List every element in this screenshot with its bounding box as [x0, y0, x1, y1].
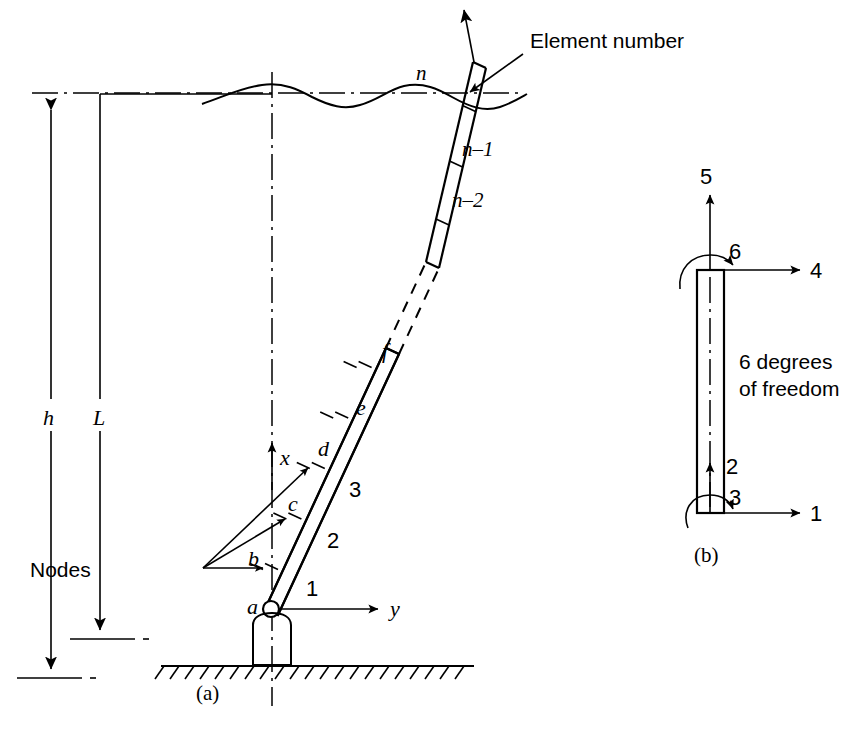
node-tick-n-2 [436, 219, 449, 225]
element-number-annotation: Element number [530, 29, 684, 52]
dimension-h: h [17, 110, 96, 678]
pin-hinge-circle [263, 601, 279, 617]
nodes-annotation: Nodes [30, 558, 91, 581]
panel-a: h L [17, 10, 684, 706]
node-tick-f [344, 362, 357, 368]
element-number-1: 1 [306, 576, 318, 601]
node-label-d: d [318, 436, 330, 461]
column-omitted-dashed-run [386, 262, 439, 354]
dimension-L-label: L [92, 405, 105, 430]
y-axis-label: y [388, 596, 400, 621]
panel-a-caption: (a) [196, 681, 219, 705]
panel-b: 5 4 6 2 1 3 6 degrees of freedom [680, 164, 840, 567]
node-tick-d [297, 463, 310, 469]
dof-4-label: 4 [810, 258, 822, 283]
element-number-3: 3 [349, 477, 361, 502]
base-support [155, 601, 474, 679]
dof-5-label: 5 [700, 164, 712, 189]
node-label-a: a [247, 594, 258, 619]
element-number-callout: Element number [470, 29, 684, 92]
x-axis-label: x [279, 445, 290, 470]
element-number-2: 2 [327, 528, 339, 553]
node-tick-n-1 [450, 161, 463, 167]
element-number-n-1: n–1 [462, 137, 494, 161]
dof-1-label: 1 [810, 501, 822, 526]
pile-top-arrow [464, 10, 474, 62]
node-tick-c [273, 513, 286, 519]
element-number-n: n [416, 61, 427, 85]
node-label-c: c [288, 491, 298, 516]
dimension-L: L [70, 94, 272, 639]
node-label-e: e [356, 395, 366, 420]
column-lower-outline [265, 348, 399, 615]
dimension-h-label: h [43, 405, 54, 430]
dof-5: 5 [700, 164, 712, 270]
dof-3-label: 3 [729, 485, 741, 510]
dof-note-line-1: 6 degrees [739, 350, 832, 373]
dof-6-label: 6 [729, 239, 741, 264]
ground-hatching [155, 666, 464, 679]
diagram-svg: h L [0, 0, 853, 736]
dof-note-line-2: of freedom [739, 377, 839, 400]
element-number-n-2: n–2 [452, 188, 484, 212]
figure-canvas: h L [0, 0, 853, 736]
node-tick-e [320, 412, 333, 418]
element-number-leader [470, 54, 523, 92]
panel-b-caption: (b) [694, 543, 719, 567]
dof-2-label: 2 [726, 454, 738, 479]
